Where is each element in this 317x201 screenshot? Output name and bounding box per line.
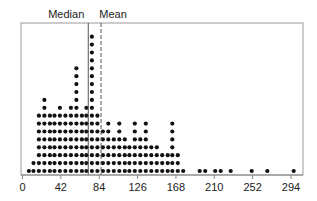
data-dot (106, 153, 110, 157)
data-dot (69, 161, 73, 165)
data-dot (74, 129, 78, 133)
data-dot (74, 90, 78, 94)
data-dot (37, 129, 41, 133)
data-dot (144, 153, 148, 157)
data-dot (58, 129, 62, 133)
x-tick-label: 42 (55, 181, 67, 193)
data-dot (95, 129, 99, 133)
data-dot (58, 161, 62, 165)
data-dot (52, 122, 56, 126)
data-dot (170, 122, 174, 126)
data-dot (219, 169, 223, 173)
data-dot (155, 145, 159, 149)
data-dot (95, 137, 99, 141)
data-dot (69, 145, 73, 149)
data-dot (166, 169, 170, 173)
data-dot (63, 153, 67, 157)
data-dot (42, 145, 46, 149)
data-dot (90, 74, 94, 78)
data-dot (48, 169, 52, 173)
data-dot (95, 145, 99, 149)
data-dot (133, 153, 137, 157)
data-dot (69, 122, 73, 126)
dot-series (27, 35, 296, 173)
data-dot (213, 169, 217, 173)
data-dot (144, 161, 148, 165)
data-dot (37, 114, 41, 118)
data-dot (133, 169, 137, 173)
data-dot (155, 153, 159, 157)
data-dot (160, 161, 164, 165)
data-dot (90, 58, 94, 62)
data-dot (112, 145, 116, 149)
data-dot (144, 122, 148, 126)
data-dot (170, 169, 174, 173)
data-dot (63, 122, 67, 126)
x-axis: 04284126168210252294 (19, 175, 303, 193)
data-dot (133, 137, 137, 141)
x-tick-label: 252 (243, 181, 261, 193)
data-dot (52, 137, 56, 141)
data-dot (37, 122, 41, 126)
data-dot (58, 106, 62, 110)
data-dot (138, 137, 142, 141)
x-tick-label: 0 (19, 181, 25, 193)
data-dot (74, 169, 78, 173)
data-dot (48, 122, 52, 126)
x-tick-label: 168 (167, 181, 185, 193)
x-tick-label: 126 (128, 181, 146, 193)
data-dot (123, 161, 127, 165)
data-dot (138, 145, 142, 149)
data-dot (42, 129, 46, 133)
data-dot (90, 50, 94, 54)
data-dot (144, 129, 148, 133)
data-dot (31, 161, 35, 165)
data-dot (112, 153, 116, 157)
data-dot (117, 145, 121, 149)
data-dot (160, 169, 164, 173)
data-dot (203, 169, 207, 173)
data-dot (117, 137, 121, 141)
data-dot (117, 169, 121, 173)
data-dot (95, 122, 99, 126)
data-dot (90, 114, 94, 118)
data-dot (63, 169, 67, 173)
data-dot (74, 66, 78, 70)
data-dot (74, 145, 78, 149)
data-dot (170, 153, 174, 157)
data-dot (127, 153, 131, 157)
data-dot (74, 137, 78, 141)
data-dot (250, 169, 254, 173)
data-dot (90, 35, 94, 39)
data-dot (138, 161, 142, 165)
data-dot (170, 137, 174, 141)
data-dot (112, 161, 116, 165)
data-dot (80, 114, 84, 118)
data-dot (133, 122, 137, 126)
data-dot (95, 114, 99, 118)
data-dot (95, 169, 99, 173)
data-dot (90, 66, 94, 70)
data-dot (112, 169, 116, 173)
data-dot (292, 169, 296, 173)
data-dot (170, 129, 174, 133)
data-dot (37, 137, 41, 141)
data-dot (144, 145, 148, 149)
data-dot (176, 153, 180, 157)
data-dot (90, 145, 94, 149)
data-dot (144, 137, 148, 141)
data-dot (80, 122, 84, 126)
data-dot (149, 161, 153, 165)
data-dot (155, 161, 159, 165)
data-dot (58, 169, 62, 173)
data-dot (52, 114, 56, 118)
data-dot (90, 90, 94, 94)
data-dot (80, 137, 84, 141)
data-dot (52, 129, 56, 133)
data-dot (37, 145, 41, 149)
data-dot (117, 122, 121, 126)
data-dot (42, 161, 46, 165)
data-dot (112, 137, 116, 141)
data-dot (123, 153, 127, 157)
median-label: Median (48, 8, 84, 20)
